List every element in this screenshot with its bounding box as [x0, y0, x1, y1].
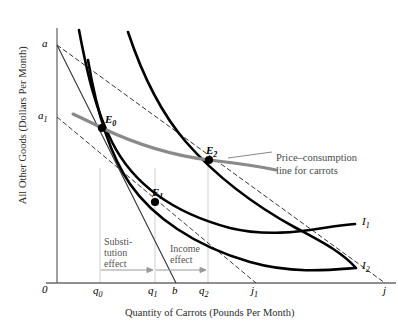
x-tick-j: j: [383, 285, 386, 296]
income-effect-annotation: Income effect: [170, 243, 200, 265]
x-tick-q2: q2: [199, 285, 209, 299]
indifference-curve-I1: [79, 30, 355, 233]
label-E2: E2: [206, 145, 217, 159]
x-tick-q0: q0: [93, 285, 103, 299]
substitution-effect-line-2: tution: [104, 247, 132, 258]
y-tick-a1: a1: [38, 110, 48, 124]
price-consumption-leader: [228, 152, 272, 158]
indifference-curve-diagram: All Other Goods (Dollars Per Month) Quan…: [0, 0, 398, 331]
y-axis-title: All Other Goods (Dollars Per Month): [18, 30, 29, 220]
x-axis-title: Quantity of Carrots (Pounds Per Month): [125, 308, 294, 319]
income-effect-line-1: Income: [170, 243, 200, 254]
label-E1: E1: [152, 187, 163, 201]
pcl-line-1: Price–consumption: [276, 152, 357, 165]
label-curve-I1: I1: [362, 216, 370, 230]
price-consumption-line-annotation: Price–consumption line for carrots: [276, 152, 357, 178]
label-E0: E0: [105, 114, 116, 128]
x-tick-b: b: [172, 285, 178, 296]
substitution-effect-line-3: effect: [104, 258, 132, 269]
income-effect-arrow: [156, 267, 206, 272]
pcl-line-2: line for carrots: [276, 165, 357, 178]
substitution-effect-line-1: Substi-: [104, 236, 132, 247]
income-effect-line-2: effect: [170, 254, 200, 265]
y-tick-a: a: [42, 38, 48, 49]
substitution-effect-annotation: Substi- tution effect: [104, 236, 132, 270]
x-tick-j1: j1: [251, 285, 258, 299]
x-tick-q1: q1: [148, 285, 158, 299]
label-curve-I2: I2: [362, 260, 370, 274]
origin-label: 0: [42, 284, 48, 295]
